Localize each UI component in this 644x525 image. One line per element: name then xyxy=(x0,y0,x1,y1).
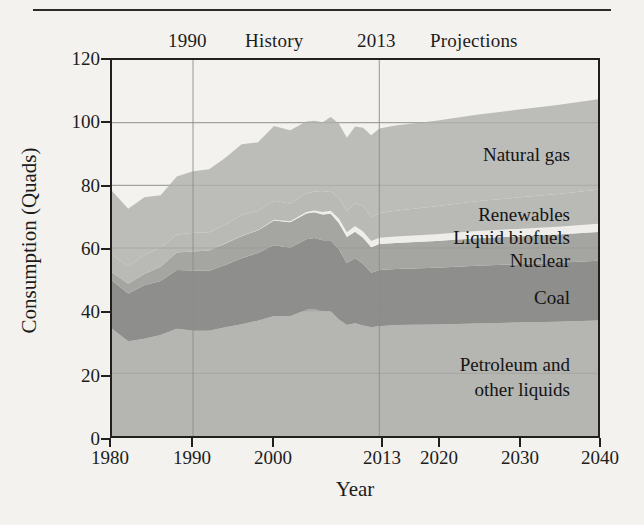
y-tick-label-60: 60 xyxy=(40,238,100,260)
header-projections-label: Projections xyxy=(430,30,518,52)
y-tick-mark-80 xyxy=(101,185,110,187)
x-tick-mark-1990 xyxy=(191,438,193,447)
y-tick-mark-100 xyxy=(101,121,110,123)
x-tick-label-2030: 2030 xyxy=(489,447,551,469)
y-tick-mark-60 xyxy=(101,248,110,250)
header-year-2013: 2013 xyxy=(357,30,396,52)
y-tick-label-100: 100 xyxy=(40,111,100,133)
x-tick-label-2000: 2000 xyxy=(242,447,304,469)
series-label-natural-gas: Natural gas xyxy=(380,145,570,166)
y-tick-mark-40 xyxy=(101,311,110,313)
x-tick-mark-1980 xyxy=(109,438,111,447)
x-tick-mark-2020 xyxy=(438,438,440,447)
series-label-nuclear: Nuclear xyxy=(380,251,570,272)
series-label-petroleum-line1: Petroleum and xyxy=(380,355,570,376)
series-label-liquid-biofuels: Liquid biofuels xyxy=(380,228,570,249)
y-tick-mark-20 xyxy=(101,375,110,377)
y-tick-mark-120 xyxy=(101,58,110,60)
y-tick-label-40: 40 xyxy=(40,301,100,323)
y-tick-label-120: 120 xyxy=(40,48,100,70)
x-tick-label-2040: 2040 xyxy=(569,447,631,469)
x-tick-mark-2030 xyxy=(519,438,521,447)
header-year-1990: 1990 xyxy=(168,30,207,52)
header-history-label: History xyxy=(245,30,303,52)
header-rule xyxy=(33,9,611,11)
y-tick-label-80: 80 xyxy=(40,175,100,197)
x-tick-mark-2040 xyxy=(599,438,601,447)
series-label-petroleum-line2: other liquids xyxy=(380,380,570,401)
x-axis-title: Year xyxy=(110,477,600,502)
x-tick-label-2020: 2020 xyxy=(408,447,470,469)
x-tick-label-2013: 2013 xyxy=(351,447,413,469)
y-axis-title: Consumption (Quads) xyxy=(17,81,42,401)
y-tick-label-20: 20 xyxy=(40,365,100,387)
series-label-coal: Coal xyxy=(380,288,570,309)
x-tick-mark-2013 xyxy=(381,438,383,447)
x-tick-label-1980: 1980 xyxy=(79,447,141,469)
series-label-renewables: Renewables xyxy=(380,205,570,226)
x-tick-label-1990: 1990 xyxy=(161,447,223,469)
energy-consumption-figure: 1990 History 2013 Projections 120 100 80… xyxy=(0,0,644,525)
x-tick-mark-2000 xyxy=(272,438,274,447)
